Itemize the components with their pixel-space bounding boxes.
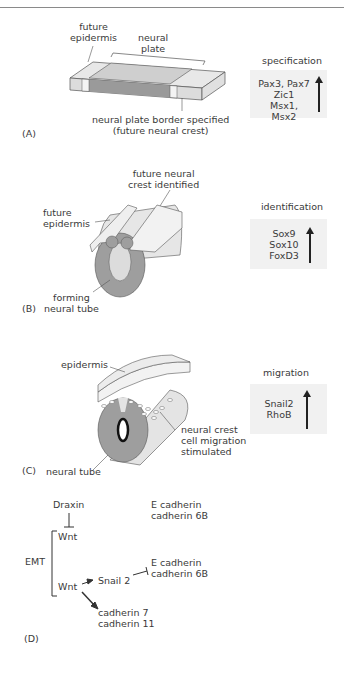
gene-list: Snail2 RhoB — [256, 398, 302, 420]
panel-label-c: (C) — [22, 465, 36, 476]
gene: Zic1 — [258, 89, 310, 100]
label-epidermis: epidermis — [61, 359, 108, 370]
text-line: stimulated — [181, 446, 246, 457]
text-line: cadherin 6B — [151, 568, 208, 579]
text-line: plate — [138, 43, 168, 54]
label-future-epidermis-b: future epidermis — [43, 207, 90, 229]
label-neural-tube: neural tube — [46, 466, 101, 477]
gene: Sox10 — [258, 239, 310, 250]
text-line: cadherin 6B — [151, 510, 208, 521]
text-line: neural tube — [44, 303, 99, 314]
label-forming-neural-tube: forming neural tube — [44, 292, 99, 314]
node-ecadherin-top: E cadherin cadherin 6B — [151, 499, 208, 521]
text-line: forming — [44, 292, 99, 303]
stage-title-identification: identification — [252, 201, 332, 212]
text-line: cadherin 11 — [98, 618, 155, 629]
panel-label-b: (B) — [22, 303, 36, 314]
panel-label-a: (A) — [22, 128, 36, 139]
stage-title-migration: migration — [246, 367, 326, 378]
neural-plate-slab — [70, 46, 225, 111]
text-line: epidermis — [43, 218, 90, 229]
text-line: future — [70, 21, 117, 32]
label-neural-plate: neural plate — [138, 32, 168, 54]
panel-label-d: (D) — [24, 633, 39, 644]
text-line: neural — [138, 32, 168, 43]
gene-list: Pax3, Pax7 Zic1 Msx1, Msx2 — [258, 78, 310, 122]
text-line: E cadherin — [151, 499, 208, 510]
text-line: E cadherin — [151, 557, 208, 568]
text-line: cell migration — [181, 435, 246, 446]
text-line: future — [43, 207, 90, 218]
node-ecadherin-mid: E cadherin cadherin 6B — [151, 557, 208, 579]
node-cadherin-7-11: cadherin 7 cadherin 11 — [98, 607, 155, 629]
stage-box-migration: Snail2 RhoB — [250, 384, 327, 434]
gene: Sox9 — [258, 228, 310, 239]
gene: Msx1, Msx2 — [258, 100, 310, 122]
up-arrow-icon — [309, 233, 311, 263]
gene: Snail2 — [256, 398, 302, 409]
node-draxin: Draxin — [53, 499, 84, 510]
node-snail2: Snail 2 — [98, 575, 130, 586]
text-line: (future neural crest) — [92, 125, 229, 136]
emt-network — [52, 513, 148, 609]
label-neural-crest-migration: neural crest cell migration stimulated — [181, 424, 246, 457]
gene: Pax3, Pax7 — [258, 78, 310, 89]
label-future-epidermis-a: future epidermis — [70, 21, 117, 43]
label-neural-plate-border: neural plate border specified (future ne… — [92, 114, 229, 136]
forming-neural-tube — [90, 190, 182, 297]
gene-list: Sox9 Sox10 FoxD3 — [258, 228, 310, 261]
up-arrow-icon — [306, 396, 308, 429]
stage-box-specification: Pax3, Pax7 Zic1 Msx1, Msx2 — [250, 70, 327, 118]
gene: RhoB — [256, 409, 302, 420]
text-line: future neural — [128, 168, 199, 179]
text-line: epidermis — [70, 32, 117, 43]
text-line: neural plate border specified — [92, 114, 229, 125]
stage-box-identification: Sox9 Sox10 FoxD3 — [250, 219, 327, 269]
neural-tube-migration — [93, 355, 190, 470]
node-emt: EMT — [25, 556, 45, 567]
up-arrow-icon — [318, 82, 320, 112]
text-line: cadherin 7 — [98, 607, 155, 618]
text-line: neural crest — [181, 424, 246, 435]
node-wnt-bottom: Wnt — [58, 581, 77, 592]
stage-title-specification: specification — [252, 55, 332, 66]
text-line: crest identified — [128, 179, 199, 190]
node-wnt-top: Wnt — [58, 531, 77, 542]
gene: FoxD3 — [258, 250, 310, 261]
label-future-neural-crest: future neural crest identified — [128, 168, 199, 190]
